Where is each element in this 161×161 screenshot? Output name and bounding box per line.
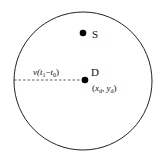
node-s-dot <box>80 30 87 37</box>
node-d-coordinates: (xd, yd) <box>92 83 117 94</box>
node-d-dot <box>82 77 89 84</box>
node-d-label: D <box>91 66 99 78</box>
node-s-label: S <box>92 28 98 40</box>
radius-label: v(t1−t0) <box>33 67 59 78</box>
diagram-canvas: S D (xd, yd) v(t1−t0) <box>0 0 161 161</box>
